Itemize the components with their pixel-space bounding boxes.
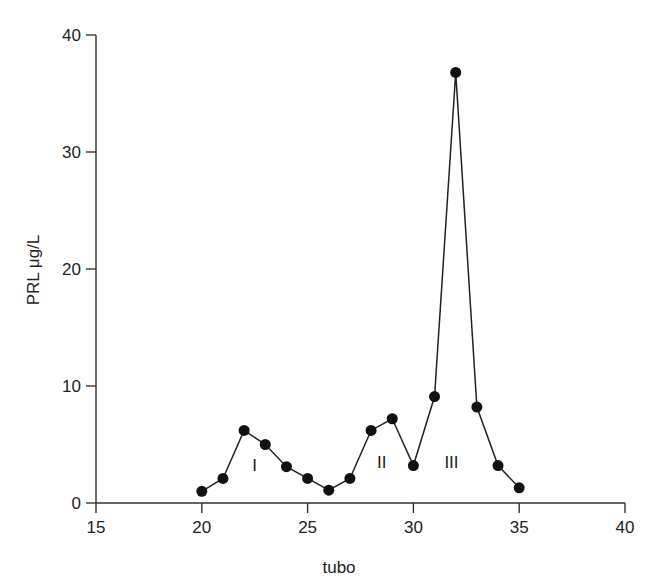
y-tick-label: 10 (62, 377, 81, 396)
data-point (260, 439, 271, 450)
data-point (493, 460, 504, 471)
y-axis-title: PRL μg/L (24, 235, 43, 306)
chart: 152025303540010203040 IIIIII tubo PRL μg… (0, 0, 656, 581)
y-tick-label: 40 (62, 26, 81, 45)
x-tick-label: 15 (87, 518, 106, 537)
data-point (366, 425, 377, 436)
x-tick-label: 35 (510, 518, 529, 537)
x-axis-title: tubo (322, 558, 355, 577)
data-point (450, 67, 461, 78)
data-series (196, 67, 524, 497)
x-tick-label: 25 (298, 518, 317, 537)
region-label: I (252, 456, 257, 475)
region-label: III (444, 453, 458, 472)
region-label: II (377, 453, 386, 472)
data-point (471, 402, 482, 413)
data-point (323, 485, 334, 496)
data-point (239, 425, 250, 436)
y-tick-label: 20 (62, 260, 81, 279)
data-point (344, 473, 355, 484)
data-point (281, 461, 292, 472)
axes: 152025303540010203040 (62, 26, 634, 537)
data-point (217, 473, 228, 484)
data-point (196, 486, 207, 497)
x-tick-label: 40 (616, 518, 635, 537)
x-tick-label: 30 (404, 518, 423, 537)
y-tick-label: 30 (62, 143, 81, 162)
x-tick-label: 20 (192, 518, 211, 537)
series-line (202, 72, 519, 491)
data-point (514, 482, 525, 493)
data-point (302, 473, 313, 484)
data-point (387, 413, 398, 424)
y-tick-label: 0 (72, 494, 81, 513)
data-point (429, 391, 440, 402)
data-point (408, 460, 419, 471)
